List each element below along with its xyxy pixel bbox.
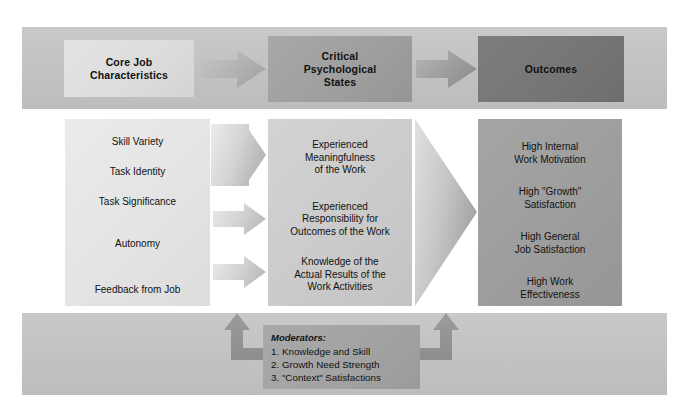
state-2-line-3: Work Activities [268, 281, 412, 294]
outcome-0-line-2: Work Motivation [478, 154, 622, 167]
core-item-feedback-from-job: Feedback from Job [65, 284, 210, 296]
outcome-1-line-2: Satisfaction [478, 199, 622, 212]
header-critical-line-2: Psychological [304, 63, 377, 76]
state-item-knowledge-of-results: Knowledge of the Actual Results of the W… [268, 256, 412, 294]
arrow-feedback-to-knowledge-icon [213, 256, 266, 288]
header-critical-line-1: Critical [322, 50, 359, 63]
moderator-item-2: 2. Growth Need Strength [271, 358, 379, 371]
header-outcomes[interactable]: Outcomes [478, 36, 624, 102]
arrow-autonomy-to-responsibility-icon [213, 203, 266, 235]
outcome-1-line-1: High "Growth" [478, 186, 622, 199]
state-0-line-3: of the Work [268, 164, 412, 177]
moderators-box[interactable]: Moderators: 1. Knowledge and Skill 2. Gr… [263, 325, 420, 389]
header-core-line-2: Characteristics [90, 69, 168, 82]
header-core-line-1: Core Job [106, 56, 153, 69]
moderators-title: Moderators: [271, 332, 326, 345]
moderator-item-1: 1. Knowledge and Skill [271, 345, 370, 358]
arrow-states-to-outcomes-large-icon [415, 119, 477, 306]
header-critical-line-3: States [324, 76, 356, 89]
outcome-item-high-work-effectiveness: High Work Effectiveness [478, 276, 622, 301]
header-core-job-characteristics[interactable]: Core Job Characteristics [64, 40, 194, 97]
state-2-line-1: Knowledge of the [268, 256, 412, 269]
core-item-skill-variety: Skill Variety [65, 136, 210, 148]
critical-psychological-states-column[interactable]: Experienced Meaningfulness of the Work E… [268, 119, 412, 306]
core-item-autonomy: Autonomy [65, 238, 210, 250]
state-0-line-1: Experienced [268, 139, 412, 152]
outcome-3-line-1: High Work [478, 276, 622, 289]
state-1-line-2: Responsibility for [268, 213, 412, 226]
arrow-converge-to-meaningfulness-icon [211, 124, 266, 186]
outcome-item-high-general-job-satisfaction: High General Job Satisfaction [478, 231, 622, 256]
header-outcomes-line-1: Outcomes [525, 63, 578, 76]
header-critical-psychological-states[interactable]: Critical Psychological States [268, 36, 412, 102]
outcome-item-high-internal-work-motivation: High Internal Work Motivation [478, 141, 622, 166]
state-1-line-1: Experienced [268, 201, 412, 214]
state-1-line-3: Outcomes of the Work [268, 226, 412, 239]
outcome-2-line-2: Job Satisfaction [478, 244, 622, 257]
diagram-canvas: Core Job Characteristics Critical Psycho… [0, 0, 689, 410]
outcome-2-line-1: High General [478, 231, 622, 244]
core-item-task-identity: Task Identity [65, 166, 210, 178]
state-0-line-2: Meaningfulness [268, 152, 412, 165]
moderator-item-3: 3. "Context" Satisfactions [271, 371, 381, 384]
outcomes-column[interactable]: High Internal Work Motivation High "Grow… [478, 119, 622, 306]
state-item-experienced-meaningfulness: Experienced Meaningfulness of the Work [268, 139, 412, 177]
state-2-line-2: Actual Results of the [268, 269, 412, 282]
core-job-characteristics-column[interactable]: Skill Variety Task Identity Task Signifi… [65, 119, 210, 306]
outcome-3-line-2: Effectiveness [478, 289, 622, 302]
core-item-task-significance: Task Significance [65, 196, 210, 208]
state-item-experienced-responsibility: Experienced Responsibility for Outcomes … [268, 201, 412, 239]
outcome-0-line-1: High Internal [478, 141, 622, 154]
outcome-item-high-growth-satisfaction: High "Growth" Satisfaction [478, 186, 622, 211]
